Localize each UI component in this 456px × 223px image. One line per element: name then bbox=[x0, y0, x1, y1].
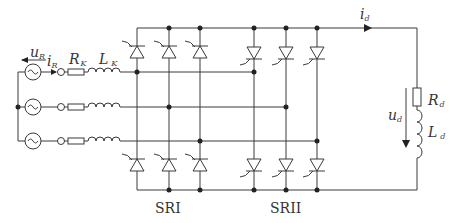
thyristor-icon bbox=[240, 47, 262, 65]
inductor-icon bbox=[88, 68, 120, 72]
resistor-icon bbox=[68, 69, 84, 75]
inductor-icon bbox=[88, 137, 120, 141]
load bbox=[413, 86, 422, 160]
thyristor-icon bbox=[154, 154, 177, 171]
circuit-diagram: uR iR RK LK id ud Rd Ld SRI SRII bbox=[0, 0, 456, 223]
bridge-srii bbox=[240, 28, 325, 190]
resistor-icon bbox=[68, 138, 84, 144]
thyristor-icon bbox=[122, 154, 145, 171]
load-resistor-icon bbox=[413, 88, 421, 106]
label-l-k: LK bbox=[98, 51, 118, 68]
terminal-icon bbox=[58, 69, 65, 76]
thyristor-icon bbox=[303, 47, 325, 65]
label-sri: SRI bbox=[155, 200, 181, 216]
bridge-sri bbox=[122, 28, 208, 190]
label-r-k: RK bbox=[68, 51, 88, 68]
thyristor-icon bbox=[185, 41, 208, 58]
label-l-d: Ld bbox=[427, 124, 445, 141]
terminal-icon bbox=[58, 138, 65, 145]
thyristor-icon bbox=[303, 159, 325, 177]
label-u-r: uR bbox=[30, 44, 45, 61]
phase-b bbox=[18, 99, 137, 115]
label-r-d: Rd bbox=[427, 92, 445, 109]
thyristor-icon bbox=[240, 159, 262, 177]
dc-current-arrow bbox=[364, 24, 372, 32]
thyristor-icon bbox=[272, 47, 294, 65]
thyristor-icon bbox=[185, 154, 208, 171]
terminal-icon bbox=[58, 104, 65, 111]
resistor-icon bbox=[68, 104, 84, 110]
load-inductor-icon bbox=[417, 110, 422, 158]
thyristor-icon bbox=[272, 159, 294, 177]
label-i-d: id bbox=[360, 6, 370, 23]
inductor-icon bbox=[88, 103, 120, 107]
label-u-d: ud bbox=[388, 107, 402, 124]
thyristor-icon bbox=[122, 41, 145, 58]
phase-c bbox=[18, 133, 137, 149]
label-srii: SRII bbox=[270, 200, 301, 216]
junction-dots bbox=[135, 26, 320, 193]
thyristor-icon bbox=[154, 41, 177, 58]
label-i-r: iR bbox=[47, 53, 58, 70]
